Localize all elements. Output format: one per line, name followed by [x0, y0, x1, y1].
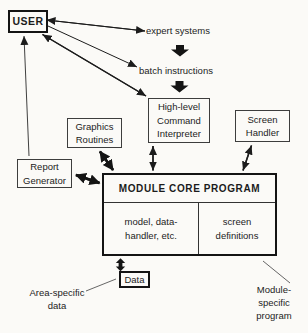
graphics-routines-line1: Graphics [75, 120, 113, 134]
module-specific-line2: specific [240, 296, 308, 309]
interpreter-line3: Interpreter [157, 127, 201, 141]
interpreter-line2: Command [157, 114, 201, 128]
area-specific-line2: data [18, 299, 96, 312]
module-core-program-node: MODULE CORE PROGRAM model, data- handler… [102, 173, 277, 256]
core-right-line2: definitions [216, 229, 259, 243]
interpreter-line1: High-level [158, 100, 200, 114]
expert-systems-label: expert systems [146, 24, 210, 37]
user-node: USER [8, 10, 48, 33]
user-label: USER [13, 15, 44, 29]
module-specific-program-label: Module- specific program [240, 283, 308, 322]
report-generator-line2: Generator [23, 174, 66, 188]
core-left-line1: model, data- [125, 215, 178, 229]
diagram-canvas: USER Graphics Routines High-level Comman… [0, 0, 308, 333]
arrow-report-generator-to-user [24, 36, 29, 156]
arrow-core-to-graphics [100, 152, 113, 171]
command-interpreter-node: High-level Command Interpreter [148, 98, 210, 143]
graphics-routines-line2: Routines [76, 133, 114, 147]
arrow-core-to-screenhandler [243, 146, 252, 171]
core-right-line1: screen [223, 215, 252, 229]
arrow-interpreter-to-user [43, 35, 147, 97]
core-cell-screen-definitions: screen definitions [199, 203, 275, 254]
report-generator-line1: Report [30, 160, 59, 174]
module-specific-line1: Module- [240, 283, 308, 296]
module-core-program-body: model, data- handler, etc. screen defini… [104, 203, 275, 254]
leader-line-module-specific [263, 261, 290, 283]
arrow-expert-systems-to-user [47, 20, 146, 31]
area-specific-data-label: Area-specific data [18, 286, 96, 312]
arrow-core-to-data [116, 258, 125, 271]
block-arrow-expert-to-batch [171, 45, 189, 57]
arrow-user-to-batch-instructions [48, 26, 137, 67]
screen-handler-line1: Screen [247, 113, 277, 127]
block-arrow-batch-to-interpreter [171, 81, 189, 93]
core-left-line2: handler, etc. [125, 229, 177, 243]
report-generator-node: Report Generator [17, 159, 72, 188]
graphics-routines-node: Graphics Routines [67, 118, 122, 148]
screen-handler-line2: Handler [246, 126, 279, 140]
data-node: Data [119, 271, 150, 288]
data-label: Data [124, 274, 144, 285]
module-core-program-title: MODULE CORE PROGRAM [104, 175, 275, 203]
core-cell-model-datahandler: model, data- handler, etc. [104, 203, 199, 254]
area-specific-line1: Area-specific [18, 286, 96, 299]
module-specific-line3: program [240, 309, 308, 322]
screen-handler-node: Screen Handler [235, 110, 290, 142]
arrow-core-to-report [76, 175, 100, 183]
batch-instructions-label: batch instructions [139, 64, 213, 77]
